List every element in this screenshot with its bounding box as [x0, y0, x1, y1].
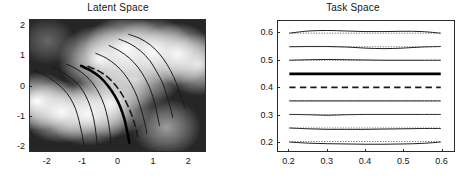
task-space-title: Task Space: [235, 2, 471, 13]
panel-latent-space: Latent Space -2-1012-2-1012: [0, 0, 236, 184]
task-ytick-label: 0.2: [249, 137, 273, 147]
task-ytick-label: 0.6: [249, 27, 273, 37]
latent-ytick-label: 1: [1, 50, 25, 60]
latent-xtick-label: 0: [115, 156, 120, 166]
latent-space-plot-area: [29, 19, 206, 152]
task-ytick-label: 0.3: [249, 110, 273, 120]
task-line-0-20: [289, 142, 440, 144]
latent-ytick-label: 0: [1, 81, 25, 91]
latent-xtick-label: -1: [78, 156, 86, 166]
task-xtick-label: 0.4: [359, 156, 372, 166]
task-ytick-label: 0.4: [249, 82, 273, 92]
latent-space-canvas: [30, 20, 205, 151]
task-space-canvas: [278, 21, 454, 151]
task-xtick-label: 0.3: [320, 156, 333, 166]
task-space-plot-area: [277, 20, 455, 152]
latent-space-title: Latent Space: [0, 2, 236, 13]
task-xtick-label: 0.2: [282, 156, 295, 166]
task-xtick-label: 0.5: [397, 156, 410, 166]
latent-ytick-label: 2: [1, 20, 25, 30]
figure-canvas: Latent Space -2-1012-2-1012 Task Space 0…: [0, 0, 471, 184]
panel-task-space: Task Space 0.20.30.40.50.60.20.30.40.50.…: [235, 0, 471, 184]
latent-xtick-label: -2: [43, 156, 51, 166]
task-xtick-label: 0.6: [435, 156, 448, 166]
latent-xtick-label: 2: [186, 156, 191, 166]
latent-ytick-label: -1: [1, 111, 25, 121]
task-ytick-label: 0.5: [249, 55, 273, 65]
latent-xtick-label: 1: [150, 156, 155, 166]
latent-ytick-label: -2: [1, 141, 25, 151]
